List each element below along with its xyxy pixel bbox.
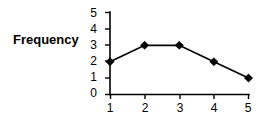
y-tick-label: 5 [90, 6, 97, 20]
x-axis-tick-labels: 1 2 3 4 5 [107, 101, 252, 115]
x-tick-label: 3 [177, 101, 184, 115]
line-chart-plot: 5 4 3 2 1 0 1 [0, 0, 265, 120]
x-tick-label: 2 [142, 101, 149, 115]
y-tick-label: 0 [90, 86, 97, 100]
data-point-marker [140, 41, 148, 49]
data-point-marker [244, 74, 252, 82]
data-series-markers [106, 41, 253, 82]
x-tick-label: 1 [107, 101, 114, 115]
x-tick-label: 4 [211, 101, 218, 115]
y-tick-label: 1 [90, 70, 97, 84]
y-tick-label: 2 [90, 54, 97, 68]
data-point-marker [106, 58, 114, 66]
y-axis-tick-labels: 5 4 3 2 1 0 [90, 6, 97, 100]
chart-figure: Frequency 5 4 3 2 1 0 [0, 0, 265, 120]
x-tick-label: 5 [245, 101, 252, 115]
data-point-marker [210, 58, 218, 66]
y-tick-label: 3 [90, 38, 97, 52]
data-series-line [110, 45, 249, 78]
y-tick-label: 4 [90, 22, 97, 36]
data-point-marker [175, 41, 183, 49]
